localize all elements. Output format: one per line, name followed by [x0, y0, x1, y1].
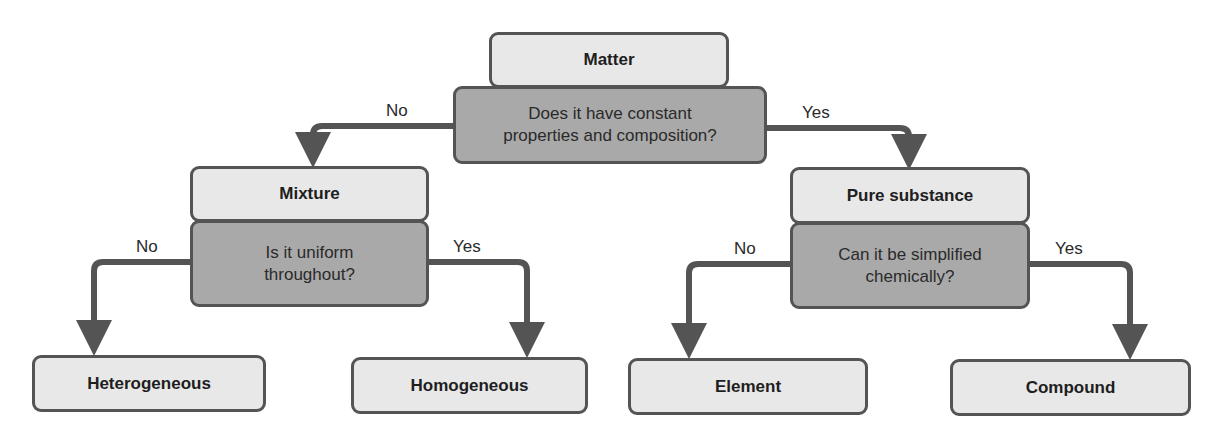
node-compound: Compound [950, 359, 1191, 416]
arrow-q3-yes [1028, 264, 1130, 342]
question-constant-properties: Does it have constant properties and com… [453, 86, 767, 164]
node-mixture: Mixture [190, 166, 429, 222]
arrow-q2-no [94, 262, 192, 338]
arrow-q2-yes [426, 262, 527, 340]
edge-label-q3-yes: Yes [1055, 239, 1083, 259]
edge-label-q3-no: No [734, 239, 756, 259]
arrow-q1-no [313, 126, 455, 150]
question-uniform: Is it uniform throughout? [190, 220, 429, 307]
edge-label-q1-yes: Yes [802, 103, 830, 123]
edge-label-q1-no: No [386, 101, 408, 121]
node-pure-substance: Pure substance [790, 167, 1030, 224]
node-matter: Matter [489, 32, 729, 88]
arrow-q3-no [689, 264, 792, 341]
arrow-q1-yes [765, 128, 909, 152]
edge-label-q2-no: No [136, 237, 158, 257]
question-simplified: Can it be simplified chemically? [790, 222, 1030, 309]
edge-label-q2-yes: Yes [453, 237, 481, 257]
node-homogeneous: Homogeneous [351, 357, 588, 414]
node-matter-label: Matter [583, 50, 634, 70]
node-heterogeneous: Heterogeneous [32, 355, 266, 412]
node-element: Element [628, 358, 868, 415]
